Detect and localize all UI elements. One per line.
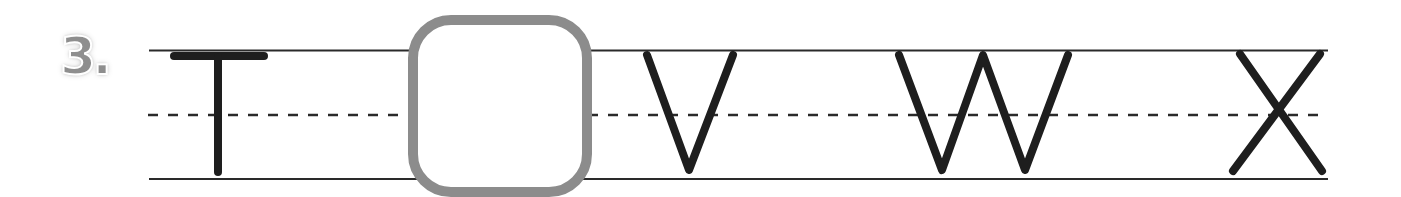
handwriting-guides	[0, 0, 1401, 197]
letter-v	[647, 55, 733, 170]
letter-w	[899, 55, 1068, 170]
letter-x	[1233, 54, 1322, 171]
letter-sequence-worksheet: 3.	[0, 0, 1401, 197]
answer-box[interactable]	[413, 20, 587, 192]
